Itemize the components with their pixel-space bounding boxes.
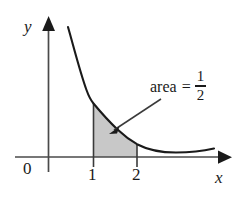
fraction-denominator: 2 <box>195 88 207 103</box>
area-annotation-fraction: 1 2 <box>195 69 207 103</box>
area-annotation-word: area <box>150 78 177 96</box>
area-annotation: area = 1 2 <box>150 70 206 104</box>
x-axis-label: x <box>215 169 223 186</box>
graph-canvas <box>0 0 243 211</box>
origin-label: 0 <box>23 160 32 177</box>
y-axis-label: y <box>24 18 32 35</box>
x-tick-label-1: 1 <box>88 166 97 183</box>
x-tick-label-2: 2 <box>132 166 141 183</box>
y-axis-arrowhead <box>42 16 55 31</box>
fraction-numerator: 1 <box>195 69 207 84</box>
math-figure-area-under-curve: y x 0 1 2 area = 1 2 <box>0 0 243 211</box>
area-annotation-equals: = <box>182 78 191 96</box>
x-axis-arrowhead <box>218 151 232 164</box>
